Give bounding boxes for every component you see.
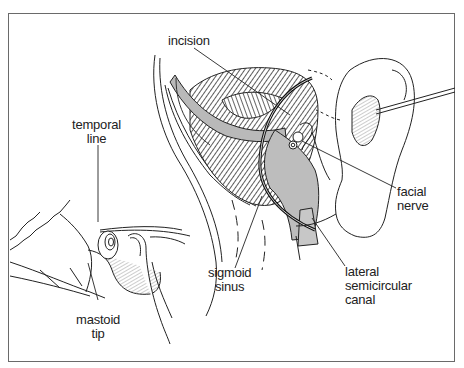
label-lateral-semicircular-canal: lateral semicircular canal <box>345 265 412 307</box>
label-mastoid-tip: mastoid tip <box>76 313 120 341</box>
label-text: incision <box>168 34 210 48</box>
label-temporal-line: temporal line <box>72 118 121 146</box>
label-text: facial <box>397 185 429 199</box>
label-text: line <box>72 132 121 146</box>
label-text: tip <box>76 327 120 341</box>
sigmoid-sinus-leader <box>235 196 262 268</box>
label-text: lateral <box>345 265 412 279</box>
label-text: semicircular <box>345 279 412 293</box>
label-text: canal <box>345 293 412 307</box>
label-text: nerve <box>397 199 429 213</box>
label-incision: incision <box>168 34 210 48</box>
label-text: sinus <box>208 280 251 294</box>
label-sigmoid-sinus: sigmoid sinus <box>208 266 251 294</box>
anatomical-illustration <box>0 0 464 368</box>
label-text: temporal <box>72 118 121 132</box>
label-facial-nerve: facial nerve <box>397 185 429 213</box>
label-text: mastoid <box>76 313 120 327</box>
label-text: sigmoid <box>208 266 251 280</box>
